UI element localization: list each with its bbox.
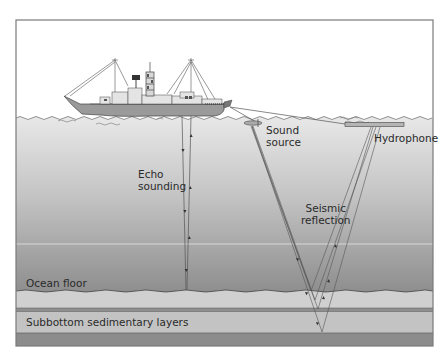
bedrock-layer [16, 333, 433, 346]
sediment-boundary-1 [16, 308, 433, 312]
label-echo-sounding: Echo sounding [138, 168, 186, 192]
label-seismic-reflection: Seismic reflection [301, 202, 351, 226]
label-ocean-floor: Ocean floor [26, 277, 87, 289]
hydrophone-streamer-icon [345, 123, 404, 127]
label-sound-source: Sound source [266, 124, 301, 148]
label-subbottom-layers: Subbottom sedimentary layers [26, 316, 188, 328]
ocean-floor-band [16, 290, 433, 308]
label-hydrophone: Hydrophone [374, 132, 438, 144]
ocean-survey-diagram [0, 0, 446, 361]
